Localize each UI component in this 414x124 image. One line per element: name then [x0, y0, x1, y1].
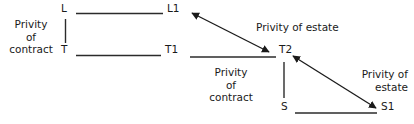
label-line: Privity: [196, 66, 266, 79]
node-label-T2: T2: [279, 44, 292, 55]
label-line: of: [196, 79, 266, 92]
label-line: Privity: [2, 18, 60, 31]
privity-diagram: L L1 T T1 T2 S S1 Privity of contract Pr…: [0, 0, 414, 124]
diagram-canvas: [0, 0, 414, 124]
label-privity-of-estate-right: Privity of estate: [340, 68, 408, 93]
node-label-T1: T1: [165, 44, 178, 55]
node-label-T: T: [61, 44, 67, 55]
label-privity-of-contract-middle: Privity of contract: [196, 66, 266, 104]
label-line: contract: [196, 91, 266, 104]
label-line: Privity of estate: [256, 21, 346, 34]
label-privity-of-estate-top: Privity of estate: [256, 21, 346, 34]
label-line: estate: [340, 81, 408, 94]
node-label-L1: L1: [167, 3, 180, 14]
label-line: Privity of: [340, 68, 408, 81]
label-line: of: [2, 31, 60, 44]
node-label-S: S: [281, 101, 288, 112]
node-label-L: L: [61, 3, 67, 14]
label-line: contract: [2, 43, 60, 56]
node-label-S1: S1: [381, 101, 394, 112]
label-privity-of-contract-left: Privity of contract: [2, 18, 60, 56]
